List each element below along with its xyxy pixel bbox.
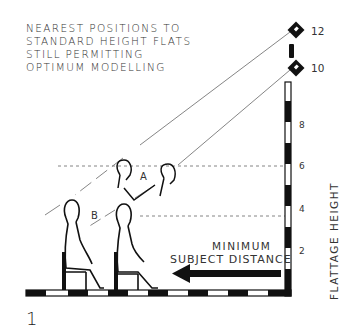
diagram-caption: NEAREST POSITIONS TO STANDARD HEIGHT FLA… xyxy=(26,22,192,74)
tick-8: 8 xyxy=(299,120,305,130)
arrow-left-icon xyxy=(172,264,281,283)
lamp-10-label: 10 xyxy=(311,62,324,74)
lamp-10-icon xyxy=(288,60,305,77)
tick-2: 2 xyxy=(299,246,305,256)
height-guide-lines xyxy=(58,166,286,216)
standing-head-a-right xyxy=(160,164,175,196)
seated-figure-front xyxy=(114,204,158,290)
zone-a-label: A xyxy=(140,171,147,182)
caption-line: OPTIMUM MODELLING xyxy=(26,61,192,74)
flattage-height-label: FLATTAGE HEIGHT xyxy=(328,182,340,300)
caption-line: STANDARD HEIGHT FLATS xyxy=(26,35,192,48)
zone-b-label: B xyxy=(91,210,98,221)
caption-line: NEAREST POSITIONS TO xyxy=(26,22,192,35)
figure-number: 1 xyxy=(26,308,37,329)
lamp-12-label: 12 xyxy=(311,25,324,37)
lighting-diagram: NEAREST POSITIONS TO STANDARD HEIGHT FLA… xyxy=(0,0,356,332)
floor-scale xyxy=(26,290,291,296)
subject-distance-label: SUBJECT DISTANCE xyxy=(170,253,292,266)
lamp-12-icon xyxy=(288,22,305,39)
minimum-label: MINIMUM xyxy=(212,240,271,252)
tick-6: 6 xyxy=(299,161,305,171)
caption-line: STILL PERMITTING xyxy=(26,48,192,61)
tick-4: 4 xyxy=(299,204,305,214)
